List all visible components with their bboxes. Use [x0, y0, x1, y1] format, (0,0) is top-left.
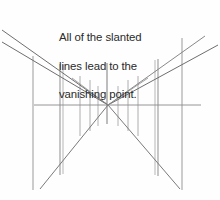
- perspective-diagram-figure: All of the slanted lines lead to the van…: [0, 0, 220, 200]
- caption-line-3: vanishing point.: [59, 87, 163, 101]
- diagram-caption: All of the slanted lines lead to the van…: [59, 16, 163, 115]
- caption-line-1: All of the slanted: [59, 30, 163, 44]
- caption-line-2: lines lead to the: [59, 59, 163, 73]
